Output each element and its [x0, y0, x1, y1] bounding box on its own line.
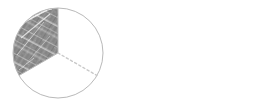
fraction-diagram-svg [0, 0, 259, 112]
figure-root: Equivalent fractions circle diagram A ci… [0, 0, 259, 112]
